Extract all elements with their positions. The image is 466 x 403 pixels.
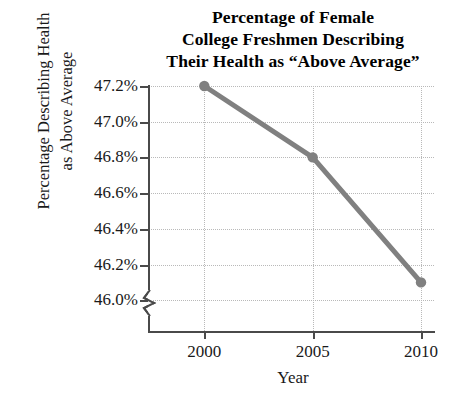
gridline-horizontal [148,229,434,230]
y-axis-tick [140,157,148,159]
y-axis-tick-label: 46.4% [52,220,138,237]
x-axis-tick [313,331,315,339]
gridline-vertical [421,86,422,331]
chart-title-line-1: Percentage of Female [120,6,466,28]
y-axis-tick-label: 47.2% [52,77,138,94]
y-axis-tick [140,86,148,88]
x-axis-tick [421,331,423,339]
x-axis-title: Year [213,368,373,388]
y-axis-spine [148,85,150,293]
y-axis-tick [140,122,148,124]
x-axis-spine [148,331,435,333]
plot-area [148,86,434,331]
gridline-horizontal [148,157,434,158]
gridline-horizontal [148,265,434,266]
x-axis-tick-label: 2000 [164,343,244,360]
gridline-horizontal [148,300,434,301]
chart-title-line-2: College Freshmen Describing [120,28,466,50]
x-axis-tick-label: 2005 [273,343,353,360]
y-axis-tick-label: 46.2% [52,256,138,273]
y-axis-tick [140,265,148,267]
gridline-horizontal [148,193,434,194]
y-axis-tick-label: 46.8% [52,148,138,165]
x-axis-tick-label: 2010 [381,343,461,360]
y-axis-tick-label: 46.0% [52,291,138,308]
y-axis-tick-label: 46.6% [52,184,138,201]
y-axis-break-icon [141,290,159,316]
y-axis-tick-label: 47.0% [52,113,138,130]
gridline-vertical [313,86,314,331]
chart-title-line-3: Their Health as “Above Average” [120,50,466,72]
gridline-horizontal [148,122,434,123]
y-axis-tick [140,300,148,302]
gridline-horizontal [148,86,434,87]
y-axis-tick [140,229,148,231]
x-axis-tick [204,331,206,339]
y-axis-tick [140,193,148,195]
chart-figure: Percentage of Female College Freshmen De… [0,0,466,403]
chart-title: Percentage of Female College Freshmen De… [120,6,466,72]
gridline-vertical [204,86,205,331]
